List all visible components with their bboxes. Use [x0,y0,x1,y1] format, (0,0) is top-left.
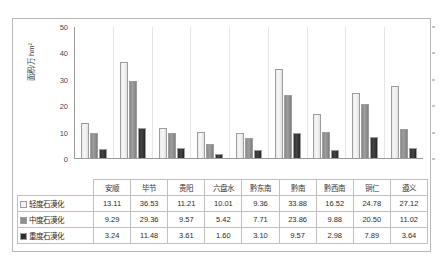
bar [361,104,369,158]
table-column-header: 遵义 [390,180,427,196]
table-cell-value: 3.24 [94,228,131,244]
table-cell-value: 7.71 [242,212,279,228]
bar [284,95,292,158]
bar-series-container [75,27,423,158]
bar [99,149,107,158]
bar-group [268,27,307,158]
bar [245,138,253,158]
legend-row-label: 轻度石漠化 [18,196,94,212]
table-cell-value: 16.52 [316,196,353,212]
bar [215,154,223,158]
legend-series-name: 中度石漠化 [29,216,64,225]
bar-group [346,27,385,158]
table-cell-value: 36.53 [131,196,168,212]
y-axis-tick-30: 30 [44,75,68,84]
y-axis-label: 面积/万 hm² [25,19,39,105]
table-corner-cell [18,180,94,196]
bar [120,62,128,158]
bar [168,133,176,158]
legend-swatch-icon [20,233,27,240]
bar-group [307,27,346,158]
y-axis-tick-0: 0 [44,155,68,164]
table-header: 安顺毕节贵阳六盘水黔东南黔南黔西南铜仁遵义 [18,180,428,196]
table-header-row: 安顺毕节贵阳六盘水黔东南黔南黔西南铜仁遵义 [18,180,428,196]
table-cell-value: 11.02 [390,212,427,228]
bar-group [191,27,230,158]
chart-figure: 面积/万 hm² 01020304050 安顺毕节贵阳六盘水黔东南黔南黔西南铜仁… [12,18,431,252]
table-cell-value: 23.86 [279,212,316,228]
bar [331,150,339,158]
table-row: 中度石漠化9.2929.369.575.427.7123.869.8820.50… [18,212,428,228]
bar [409,148,417,158]
y-axis-tick-50: 50 [44,23,68,32]
bar [138,128,146,158]
table-cell-value: 24.78 [353,196,390,212]
y-axis-tickmark-10 [432,132,435,133]
bar-group [152,27,191,158]
bar [391,86,399,158]
bar-group [384,27,423,158]
table-cell-value: 10.01 [205,196,242,212]
bar [236,133,244,158]
bar-group [114,27,153,158]
bar [370,137,378,158]
table-column-header: 黔东南 [242,180,279,196]
table-cell-value: 27.12 [390,196,427,212]
bar-group [230,27,269,158]
y-axis-tickmark-40 [432,53,435,54]
table-row: 重度石漠化3.2411.483.611.603.109.572.987.893.… [18,228,428,244]
bar [129,81,137,159]
table-cell-value: 2.98 [316,228,353,244]
bar-group [75,27,114,158]
table-body: 轻度石漠化13.1136.5311.2110.019.3633.8816.522… [18,196,428,244]
bar [90,133,98,158]
table-cell-value: 9.29 [94,212,131,228]
plot-axes [74,27,423,159]
bar [400,129,408,158]
y-axis-tick-20: 20 [44,102,68,111]
bar [352,93,360,158]
table-cell-value: 11.21 [168,196,205,212]
y-axis-tickmark-0 [432,159,435,160]
y-axis-tickmark-30 [432,79,435,80]
bar [81,123,89,158]
table-cell-value: 3.10 [242,228,279,244]
bar-chart-plot-region: 面积/万 hm² 01020304050 [13,19,432,177]
legend-series-name: 重度石漠化 [29,232,64,241]
table-column-header: 贵阳 [168,180,205,196]
legend-row-label: 重度石漠化 [18,228,94,244]
table-cell-value: 29.36 [131,212,168,228]
table-cell-value: 13.11 [94,196,131,212]
legend-row-label: 中度石漠化 [18,212,94,228]
chart-data-table: 安顺毕节贵阳六盘水黔东南黔南黔西南铜仁遵义 轻度石漠化13.1136.5311.… [17,179,428,244]
table-column-header: 毕节 [131,180,168,196]
table-cell-value: 3.64 [390,228,427,244]
table-column-header: 安顺 [94,180,131,196]
y-axis-tickmark-50 [432,27,435,28]
y-axis-tick-labels: 01020304050 [45,27,71,159]
table-cell-value: 9.88 [316,212,353,228]
table-row: 轻度石漠化13.1136.5311.2110.019.3633.8816.522… [18,196,428,212]
table-cell-value: 33.88 [279,196,316,212]
legend-series-name: 轻度石漠化 [29,200,64,209]
table-column-header: 六盘水 [205,180,242,196]
table-cell-value: 9.57 [168,212,205,228]
bar [206,144,214,158]
table-cell-value: 11.48 [131,228,168,244]
bar [275,69,283,158]
table-cell-value: 5.42 [205,212,242,228]
legend-swatch-icon [20,217,27,224]
table-cell-value: 20.50 [353,212,390,228]
table-cell-value: 1.60 [205,228,242,244]
y-axis-tick-10: 10 [44,128,68,137]
table-cell-value: 7.89 [353,228,390,244]
y-axis-tick-40: 40 [44,49,68,58]
bar [313,114,321,158]
table-column-header: 黔南 [279,180,316,196]
bar [159,128,167,158]
bar [177,148,185,158]
table-column-header: 黔西南 [316,180,353,196]
table-column-header: 铜仁 [353,180,390,196]
legend-swatch-icon [20,201,27,208]
table-cell-value: 3.61 [168,228,205,244]
